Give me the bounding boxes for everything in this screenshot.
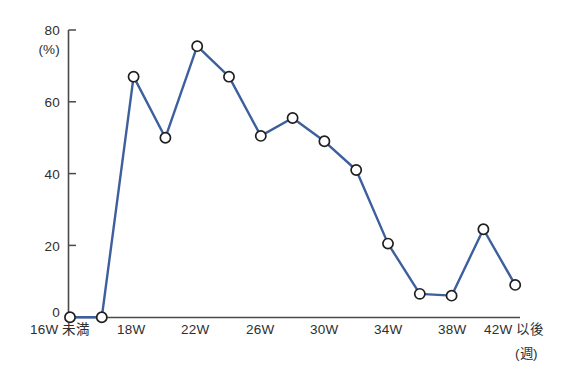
x-tick-label-34w: 34W <box>374 323 402 337</box>
y-axis-unit-label: (%) <box>18 43 60 57</box>
x-tick-label-16w: 16W 未満 <box>30 323 89 337</box>
data-point-marker[interactable] <box>510 280 520 290</box>
data-point-marker[interactable] <box>351 165 361 175</box>
data-point-marker[interactable] <box>319 136 329 146</box>
y-tick-label-40: 40 <box>22 168 60 182</box>
data-point-marker[interactable] <box>415 289 425 299</box>
data-point-marker[interactable] <box>129 72 139 82</box>
series-line <box>70 46 515 317</box>
y-tick-label-60: 60 <box>22 96 60 110</box>
data-point-marker[interactable] <box>224 72 234 82</box>
data-point-marker[interactable] <box>478 224 488 234</box>
x-tick-label-22w: 22W <box>181 323 209 337</box>
data-series <box>65 41 520 322</box>
x-tick-label-30w: 30W <box>310 323 338 337</box>
line-chart: 80 (%) 60 40 20 0 16W 未満 18W 22W 26W 30W… <box>0 0 578 378</box>
data-point-marker[interactable] <box>160 133 170 143</box>
x-tick-label-38w: 38W <box>438 323 466 337</box>
y-tick-label-0: 0 <box>22 306 60 320</box>
data-point-marker[interactable] <box>288 113 298 123</box>
x-tick-label-42w: 42W 以後 <box>484 323 543 337</box>
data-point-marker[interactable] <box>447 291 457 301</box>
y-tick-label-80: 80 <box>22 24 60 38</box>
x-tick-label-26w: 26W <box>246 323 274 337</box>
data-point-marker[interactable] <box>383 239 393 249</box>
x-tick-label-18w: 18W <box>117 323 145 337</box>
data-point-marker[interactable] <box>97 312 107 322</box>
y-tick-label-20: 20 <box>22 240 60 254</box>
data-point-marker[interactable] <box>256 131 266 141</box>
data-point-marker[interactable] <box>65 312 75 322</box>
x-axis-unit-label: (週) <box>515 347 538 361</box>
data-point-marker[interactable] <box>192 41 202 51</box>
